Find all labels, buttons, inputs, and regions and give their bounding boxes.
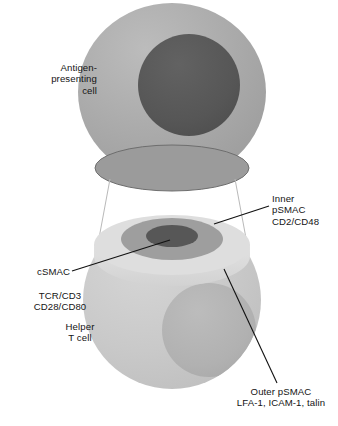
label-inner-psmac: Inner pSMAC CD2/CD48 — [272, 193, 319, 227]
label-outer-psmac: Outer pSMAC LFA-1, ICAM-1, talin — [227, 386, 335, 409]
label-helper-t-cell: Helper T cell — [46, 321, 114, 344]
helper-t-cell-graphic — [83, 211, 261, 389]
apc-nucleus — [138, 34, 240, 136]
apc-contact-face — [95, 145, 249, 191]
label-antigen-presenting-cell: Antigen- presenting cell — [51, 62, 97, 96]
leader-line-inner-psmac — [214, 206, 269, 224]
label-tcr-cd3-cd28-cd80: TCR/CD3 CD28/CD80 — [14, 290, 106, 313]
label-csmac: cSMAC — [37, 266, 70, 277]
csmac-zone — [146, 225, 198, 247]
tcell-nucleus — [162, 283, 256, 377]
figure-canvas: Antigen- presenting cell Inner pSMAC CD2… — [0, 0, 338, 426]
antigen-presenting-cell-graphic — [78, 3, 266, 191]
